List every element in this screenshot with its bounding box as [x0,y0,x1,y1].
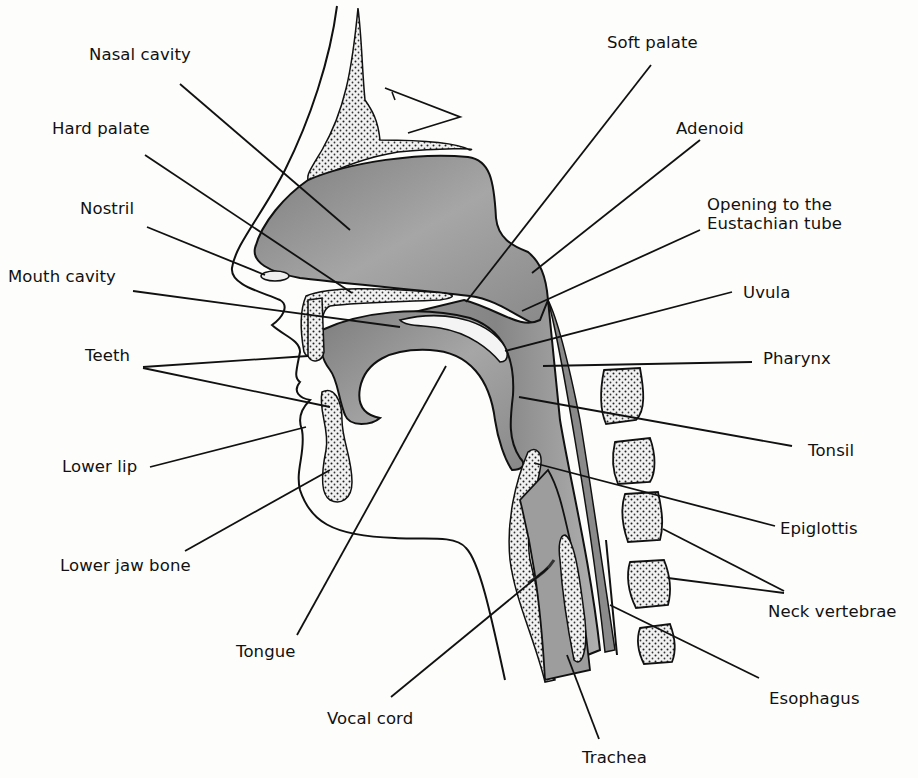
label-hard-palate: Hard palate [52,119,150,138]
label-nasal-cavity: Nasal cavity [89,45,191,64]
label-vocal-cord: Vocal cord [327,709,413,728]
leader-line-esophagus [610,605,759,678]
label-tonsil: Tonsil [808,441,854,460]
label-lower-lip: Lower lip [62,457,137,476]
leader-line-teeth-lower [143,368,330,407]
leader-line-pharynx [543,362,752,366]
label-lower-jaw-bone: Lower jaw bone [60,556,191,575]
leader-line-lower-lip [150,427,306,467]
label-mouth-cavity: Mouth cavity [8,267,116,286]
label-adenoid: Adenoid [676,119,744,138]
label-epiglottis: Epiglottis [780,519,858,538]
label-soft-palate: Soft palate [607,33,698,52]
leader-line-adenoid [532,140,700,273]
label-pharynx: Pharynx [763,349,831,368]
leader-line-neck-vertebrae-2 [668,578,784,593]
leader-line-vocal-cord [391,568,548,697]
label-uvula: Uvula [743,283,791,302]
anatomy-figure [0,0,918,778]
leader-line-tongue [297,366,446,635]
label-teeth: Teeth [85,346,130,365]
label-trachea: Trachea [582,748,647,767]
leader-line-soft-palate [466,65,651,302]
label-nostril: Nostril [80,199,134,218]
leader-line-lower-jaw-bone [185,470,330,551]
label-tongue: Tongue [236,642,296,661]
label-eustachian-tube: Opening to the Eustachian tube [707,195,842,233]
upper-teeth [308,298,324,361]
nostril-opening [261,271,289,281]
leader-line-neck-vertebrae [663,529,784,591]
label-neck-vertebrae: Neck vertebrae [768,602,897,621]
leader-line-teeth [143,356,308,367]
label-esophagus: Esophagus [769,689,860,708]
nasal-cavity [255,156,548,330]
leader-line-eustachian-tube [522,230,700,311]
